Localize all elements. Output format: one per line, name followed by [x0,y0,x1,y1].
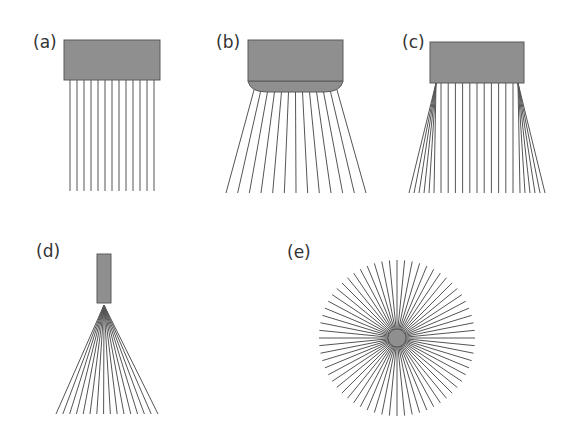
ray-line [397,278,446,338]
optics-diagram: (a) (b) (c) (d) (e) [0,0,572,439]
ray-line [104,305,158,414]
ray-line [323,90,343,193]
panel-b-diverging-lens-source: (b) [216,32,366,193]
ray-line [309,90,319,193]
ray-line [296,90,297,193]
ray-line [397,338,446,398]
panel-a-collimated-source: (a) [33,32,160,191]
panel-d-label: (d) [36,241,60,261]
panel-e-isotropic-source: (e) [287,242,475,416]
panel-b-lens [248,81,343,92]
ray-line [249,90,268,193]
ray-line [518,83,535,193]
panel-c-label: (c) [402,32,425,52]
panel-a-label: (a) [33,32,57,52]
ray-line [419,83,436,193]
ray-line [261,90,275,193]
ray-line [409,83,436,193]
panel-d-source-box [97,254,111,303]
panel-c-source-box [430,42,524,83]
ray-line [104,305,131,414]
ray-line [348,278,397,338]
panel-a-rays [70,80,154,191]
panel-d-rays [56,305,158,414]
ray-line [104,305,144,414]
ray-line [518,83,545,193]
panel-e-label: (e) [287,242,311,262]
ray-line [273,90,282,193]
panel-d-point-fan-source: (d) [36,241,158,414]
ray-line [316,90,331,193]
panel-a-source-box [64,40,160,80]
ray-line [348,338,397,398]
ray-line [397,289,457,338]
panel-b-rays [226,90,366,193]
ray-line [397,338,457,387]
panel-b-source-box [248,40,343,81]
ray-line [302,90,307,193]
panel-e-point-source [388,329,406,347]
ray-line [337,90,366,193]
ray-line [284,90,288,193]
panel-b-label: (b) [216,32,240,52]
panel-c-rays [409,83,545,193]
ray-line [337,338,397,387]
ray-line [337,289,397,338]
ray-line [330,90,354,193]
panel-c-edge-fan-source: (c) [402,32,545,193]
